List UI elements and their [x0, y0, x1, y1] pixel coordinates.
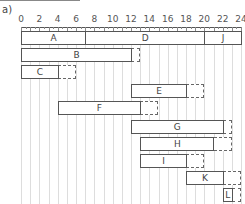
- grid-line: [241, 44, 242, 204]
- axis-tick: [35, 27, 36, 29]
- task-bar-d: D: [85, 31, 205, 45]
- slack-box-e: [186, 84, 204, 98]
- top-rule: [0, 0, 80, 1]
- x-tick-label: 14: [144, 14, 155, 24]
- x-tick-label: 0: [18, 14, 24, 24]
- slack-box-b: [131, 48, 140, 62]
- axis-tick: [126, 27, 127, 29]
- slack-box-i: [186, 154, 204, 168]
- task-bar-a: A: [21, 31, 86, 45]
- grid-line: [85, 44, 86, 204]
- slack-box-l: [232, 188, 241, 202]
- grid-line: [113, 44, 114, 204]
- axis-tick: [53, 27, 54, 29]
- task-bar-e: E: [131, 84, 187, 98]
- task-bar-k: K: [186, 171, 224, 185]
- axis-tick: [26, 27, 27, 29]
- grid-line: [104, 44, 105, 204]
- panel-label: a): [2, 4, 12, 15]
- grid-line: [76, 44, 77, 204]
- grid-line: [94, 44, 95, 204]
- task-bar-l: L: [223, 188, 233, 202]
- axis-tick: [108, 27, 109, 29]
- x-tick-label: 6: [73, 14, 79, 24]
- axis-tick: [163, 27, 164, 29]
- slack-box-h: [214, 137, 232, 151]
- task-bar-g: G: [131, 120, 224, 134]
- task-bar-c: C: [21, 65, 59, 79]
- axis-tick: [90, 27, 91, 29]
- axis-tick: [71, 27, 72, 29]
- axis-tick: [117, 27, 118, 29]
- x-tick-label: 12: [125, 14, 136, 24]
- slack-box-f: [140, 101, 158, 115]
- axis-tick: [191, 27, 192, 29]
- axis-tick: [236, 27, 237, 29]
- axis-tick: [181, 27, 182, 29]
- x-tick-label: 24: [235, 14, 245, 24]
- task-bar-i: I: [140, 154, 187, 168]
- axis-tick: [145, 27, 146, 29]
- x-tick-label: 16: [162, 14, 173, 24]
- axis-tick: [99, 27, 100, 29]
- axis-tick: [81, 27, 82, 29]
- axis-tick: [154, 27, 155, 29]
- x-tick-label: 22: [217, 14, 228, 24]
- axis-tick: [209, 27, 210, 29]
- axis-tick: [172, 27, 173, 29]
- slack-box-g: [223, 120, 232, 134]
- axis-tick: [227, 27, 228, 29]
- task-bar-f: F: [58, 101, 142, 115]
- axis-tick: [218, 27, 219, 29]
- slack-box-k: [223, 171, 241, 185]
- grid-line: [122, 44, 123, 204]
- task-bar-j: J: [204, 31, 242, 45]
- slack-box-c: [58, 65, 76, 79]
- x-tick-label: 10: [107, 14, 118, 24]
- task-bar-b: B: [21, 48, 132, 62]
- x-tick-label: 18: [180, 14, 191, 24]
- axis-tick: [62, 27, 63, 29]
- task-bar-h: H: [140, 137, 214, 151]
- x-tick-label: 2: [36, 14, 42, 24]
- axis-tick: [136, 27, 137, 29]
- x-tick-label: 8: [91, 14, 97, 24]
- axis-tick: [44, 27, 45, 29]
- x-tick-label: 20: [199, 14, 210, 24]
- axis-tick: [200, 27, 201, 29]
- x-tick-label: 4: [55, 14, 61, 24]
